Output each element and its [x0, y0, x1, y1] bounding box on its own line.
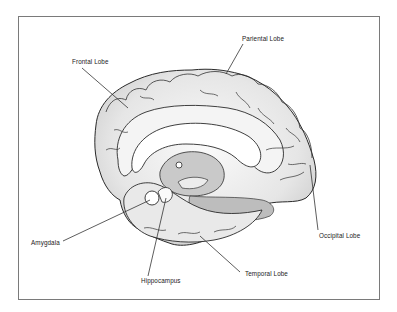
amygdala-shape — [145, 191, 159, 205]
label-parietal-lobe: Pariental Lobe — [242, 35, 284, 42]
brain-illustration — [0, 0, 397, 312]
label-frontal-lobe: Frontal Lobe — [72, 58, 109, 65]
label-amygdala: Amygdala — [31, 239, 60, 246]
leader-parietal — [226, 44, 243, 74]
label-temporal-lobe: Temporal Lobe — [245, 270, 288, 277]
label-hippocampus: Hippocampus — [141, 277, 181, 284]
label-occipital-lobe: Occipital Lobe — [319, 232, 360, 239]
leader-temporal — [200, 236, 240, 272]
